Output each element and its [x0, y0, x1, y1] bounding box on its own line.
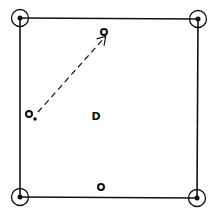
corner-dot-icon [195, 196, 200, 201]
top-center-target-marker [101, 29, 107, 35]
square-bottom-edge [20, 197, 197, 198]
bottom-center-marker [98, 184, 104, 190]
square-right-edge [197, 19, 198, 198]
dashed-movement-arrow [38, 37, 105, 112]
square-outline [20, 18, 198, 198]
center-label: D [91, 110, 100, 123]
left-start-marker [26, 111, 32, 117]
square-top-edge [20, 18, 198, 19]
corner-dot-icon [18, 16, 23, 21]
diagram-canvas: D [0, 0, 217, 218]
corner-dot-icon [18, 195, 23, 200]
corner-dot-icon [196, 17, 201, 22]
left-start-dot [33, 117, 37, 121]
